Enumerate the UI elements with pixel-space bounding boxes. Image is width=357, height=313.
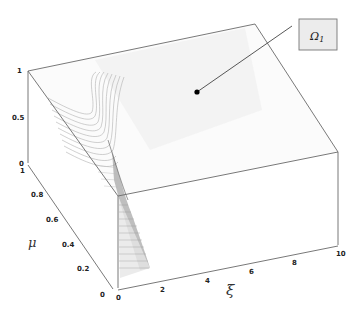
z-axis-ticks: 1 0.5 0 xyxy=(12,67,25,168)
svg-text:0.2: 0.2 xyxy=(77,265,90,273)
mu-axis-ticks: 1 0.8 0.6 0.4 0.2 0 xyxy=(20,167,105,299)
svg-text:0: 0 xyxy=(116,294,121,302)
svg-text:4: 4 xyxy=(205,277,210,285)
svg-text:0: 0 xyxy=(100,291,105,299)
svg-text:0.4: 0.4 xyxy=(62,241,75,249)
svg-text:10: 10 xyxy=(336,250,346,258)
svg-text:0.6: 0.6 xyxy=(46,216,59,224)
annotation-point xyxy=(194,89,199,94)
xi-axis-label: ξ xyxy=(226,281,235,299)
mu-axis-label: μ xyxy=(28,235,36,250)
svg-text:1: 1 xyxy=(20,167,25,175)
surface-plot-3d: 1 0.5 0 1 0.8 0.6 0.4 0.2 0 μ 0 2 4 6 8 … xyxy=(0,0,357,313)
svg-text:0.8: 0.8 xyxy=(31,191,44,199)
svg-text:8: 8 xyxy=(292,259,297,267)
front-face-hatched xyxy=(118,196,150,278)
svg-text:1: 1 xyxy=(17,67,22,75)
svg-text:0.5: 0.5 xyxy=(12,114,25,122)
svg-text:2: 2 xyxy=(160,286,165,294)
svg-text:6: 6 xyxy=(249,268,254,276)
